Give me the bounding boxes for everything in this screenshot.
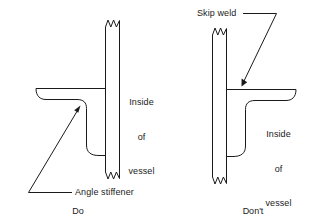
left-zigzag-break-top-icon	[106, 20, 120, 27]
right-vessel-wall	[213, 35, 227, 177]
left-leader-diagonal	[29, 111, 78, 193]
right-zigzag-break-bottom-icon	[213, 177, 227, 184]
left-inside-of-vessel-label: Inside of vessel	[121, 74, 162, 201]
right-callout-leader	[242, 14, 277, 87]
angle-stiffener-label: Angle stiffener	[75, 187, 134, 199]
right-panel-caption: Don't	[223, 206, 283, 216]
right-inside-line-2: of	[258, 164, 299, 176]
technical-diagram-figure: Inside of vessel Angle stiffener Do Skip…	[0, 0, 319, 224]
left-inside-line-1: Inside	[121, 97, 162, 109]
left-inside-line-3: vessel	[121, 166, 162, 178]
left-vessel-wall	[106, 27, 120, 172]
left-callout-leader	[29, 106, 81, 193]
left-panel-drawing	[29, 20, 120, 193]
skip-weld-label: Skip weld	[197, 8, 236, 20]
left-leader-arrowhead-icon	[74, 106, 80, 113]
right-inside-line-1: Inside	[258, 129, 299, 141]
left-zigzag-break-bottom-icon	[106, 172, 120, 179]
right-zigzag-break-top-icon	[213, 28, 227, 35]
left-inside-line-2: of	[121, 132, 162, 144]
left-panel-caption: Do	[48, 206, 108, 216]
right-leader-diagonal	[244, 14, 277, 82]
